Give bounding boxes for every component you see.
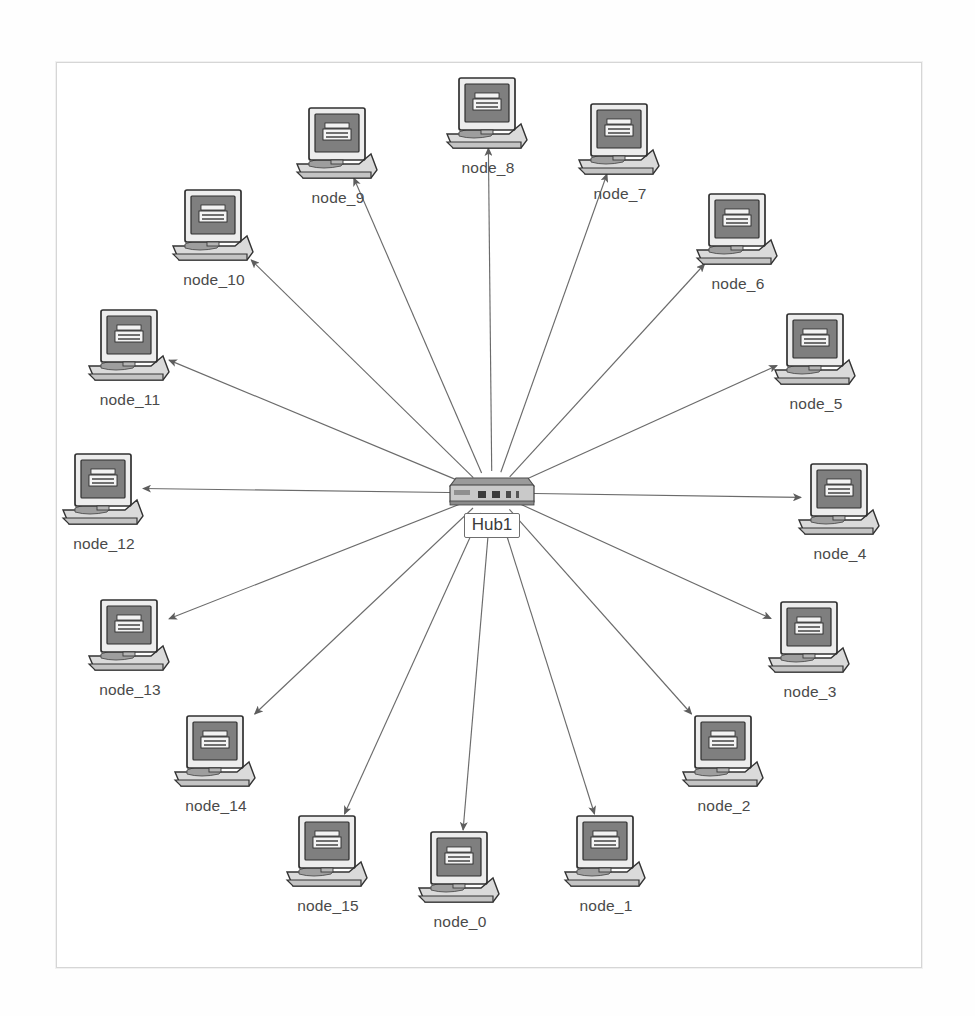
node-label-node_14: node_14	[168, 797, 264, 815]
node-label-node_6: node_6	[690, 275, 786, 293]
computer-icon	[59, 450, 149, 534]
computer-icon	[679, 712, 769, 796]
computer-icon	[771, 310, 861, 394]
network-node-node_0[interactable]: node_0	[412, 828, 508, 931]
node-label-node_8: node_8	[440, 159, 536, 177]
network-node-node_12[interactable]: node_12	[56, 450, 152, 553]
network-node-node_14[interactable]: node_14	[168, 712, 264, 815]
computer-icon	[415, 828, 505, 912]
computer-icon	[171, 712, 261, 796]
computer-icon	[561, 812, 651, 896]
network-node-node_3[interactable]: node_3	[762, 598, 858, 701]
node-label-node_15: node_15	[280, 897, 376, 915]
computer-icon	[169, 186, 259, 270]
network-node-node_11[interactable]: node_11	[82, 306, 178, 409]
node-label-node_11: node_11	[82, 391, 178, 409]
node-label-node_3: node_3	[762, 683, 858, 701]
node-label-node_1: node_1	[558, 897, 654, 915]
network-node-node_15[interactable]: node_15	[280, 812, 376, 915]
topology-screenshot: node_0 node_1	[0, 0, 975, 1016]
network-node-node_2[interactable]: node_2	[676, 712, 772, 815]
node-label-node_9: node_9	[290, 189, 386, 207]
hub-label: Hub1	[464, 513, 521, 538]
network-node-node_4[interactable]: node_4	[792, 460, 888, 563]
network-node-node_7[interactable]: node_7	[572, 100, 668, 203]
node-label-node_2: node_2	[676, 797, 772, 815]
network-node-node_6[interactable]: node_6	[690, 190, 786, 293]
computer-icon	[85, 596, 175, 680]
node-label-node_13: node_13	[82, 681, 178, 699]
computer-icon	[293, 104, 383, 188]
node-label-node_12: node_12	[56, 535, 152, 553]
node-label-node_10: node_10	[166, 271, 262, 289]
hub-device-icon	[444, 470, 540, 516]
computer-icon	[283, 812, 373, 896]
computer-icon	[693, 190, 783, 274]
hub-device[interactable]: Hub1	[432, 470, 552, 538]
node-label-node_4: node_4	[792, 545, 888, 563]
node-label-node_7: node_7	[572, 185, 668, 203]
computer-icon	[795, 460, 885, 544]
network-node-node_1[interactable]: node_1	[558, 812, 654, 915]
network-node-node_5[interactable]: node_5	[768, 310, 864, 413]
computer-icon	[443, 74, 533, 158]
network-node-node_10[interactable]: node_10	[166, 186, 262, 289]
computer-icon	[575, 100, 665, 184]
network-node-node_8[interactable]: node_8	[440, 74, 536, 177]
computer-icon	[765, 598, 855, 682]
network-node-node_9[interactable]: node_9	[290, 104, 386, 207]
node-label-node_0: node_0	[412, 913, 508, 931]
computer-icon	[85, 306, 175, 390]
node-label-node_5: node_5	[768, 395, 864, 413]
network-node-node_13[interactable]: node_13	[82, 596, 178, 699]
